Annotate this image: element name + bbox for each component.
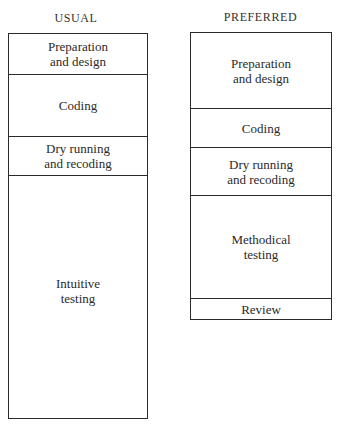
- preferred-segment-coding: Coding: [191, 109, 331, 148]
- usual-segment-preparation-design: Preparation and design: [9, 34, 147, 75]
- segment-label: Review: [241, 302, 281, 317]
- usual-column-title: USUAL: [7, 11, 145, 26]
- segment-label: Dry running and recoding: [227, 157, 295, 187]
- segment-label: Coding: [242, 121, 280, 136]
- usual-segment-dry-running: Dry running and recoding: [9, 137, 147, 176]
- usual-segment-intuitive-testing: Intuitive testing: [9, 176, 147, 418]
- preferred-segment-dry-running: Dry running and recoding: [191, 148, 331, 196]
- usual-stack: Preparation and design Coding Dry runnin…: [8, 33, 148, 419]
- preferred-segment-preparation-design: Preparation and design: [191, 33, 331, 109]
- segment-label: Dry running and recoding: [44, 141, 112, 171]
- segment-label: Preparation and design: [48, 39, 108, 69]
- preferred-segment-methodical-testing: Methodical testing: [191, 196, 331, 299]
- usual-segment-coding: Coding: [9, 75, 147, 137]
- segment-label: Methodical testing: [231, 232, 290, 262]
- preferred-stack: Preparation and design Coding Dry runnin…: [190, 32, 332, 320]
- segment-label: Preparation and design: [231, 56, 291, 86]
- preferred-column-title: PREFERRED: [190, 10, 331, 25]
- segment-label: Intuitive testing: [56, 276, 100, 306]
- segment-label: Coding: [59, 98, 97, 113]
- preferred-segment-review: Review: [191, 299, 331, 319]
